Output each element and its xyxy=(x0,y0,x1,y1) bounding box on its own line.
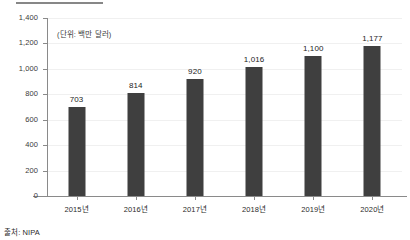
y-axis-tick-label: 1,000 xyxy=(19,65,38,73)
x-axis-tick-label: 2020년 xyxy=(360,203,384,214)
y-axis-tick xyxy=(43,171,48,172)
bar[interactable] xyxy=(68,107,85,196)
bar-value-label: 920 xyxy=(188,67,202,76)
y-axis-tick xyxy=(43,18,48,19)
x-axis-tick xyxy=(372,196,373,200)
bar[interactable] xyxy=(127,93,144,196)
x-axis-tick xyxy=(136,196,137,200)
y-axis-tick xyxy=(43,94,48,95)
bar-group[interactable]: 814 xyxy=(110,18,162,196)
bar-value-label: 814 xyxy=(129,81,143,90)
bar-group[interactable]: 1,016 xyxy=(228,18,280,196)
y-axis-tick-label: 400 xyxy=(25,141,38,149)
x-axis-tick xyxy=(254,196,255,200)
bar-value-label: 1,100 xyxy=(303,44,324,53)
bar-chart-figure: 7038149201,0161,1001,177 (단위: 백만 달러) 출처:… xyxy=(0,0,410,240)
bar[interactable] xyxy=(364,46,381,196)
x-axis-tick xyxy=(313,196,314,200)
y-axis-tick xyxy=(43,43,48,44)
y-axis-tick xyxy=(43,145,48,146)
y-axis-tick xyxy=(43,69,48,70)
x-axis-tick-label: 2018년 xyxy=(242,203,266,214)
bar-value-label: 1,016 xyxy=(244,55,265,64)
bar[interactable] xyxy=(305,56,322,196)
bar-group[interactable]: 920 xyxy=(169,18,221,196)
y-axis-tick-label: 1,400 xyxy=(19,14,38,22)
x-axis-tick xyxy=(195,196,196,200)
bar-group[interactable]: 1,177 xyxy=(346,18,398,196)
bar-group[interactable]: 1,100 xyxy=(287,18,339,196)
y-axis-tick xyxy=(43,120,48,121)
bar[interactable] xyxy=(246,67,263,196)
x-axis-line xyxy=(33,196,407,197)
y-axis-tick-label: 1,200 xyxy=(19,39,38,47)
bar-value-label: 1,177 xyxy=(362,34,383,43)
x-axis-tick-label: 2017년 xyxy=(183,203,207,214)
y-axis-tick-label: 0 xyxy=(34,192,38,200)
y-axis-tick-label: 200 xyxy=(25,167,38,175)
plot-area: 7038149201,0161,1001,177 xyxy=(47,18,402,196)
source-note: 출처: NIPA xyxy=(4,226,40,237)
unit-annotation: (단위: 백만 달러) xyxy=(57,28,111,39)
y-axis-tick xyxy=(43,196,48,197)
x-axis-tick xyxy=(77,196,78,200)
y-axis-tick-label: 800 xyxy=(25,90,38,98)
x-axis-tick-label: 2016년 xyxy=(124,203,148,214)
bar-group[interactable]: 703 xyxy=(51,18,103,196)
bar-value-label: 703 xyxy=(70,95,84,104)
y-axis-tick-label: 600 xyxy=(25,116,38,124)
x-axis-tick-label: 2019년 xyxy=(301,203,325,214)
top-divider-rule xyxy=(16,2,103,4)
bar[interactable] xyxy=(186,79,203,196)
x-axis-tick-label: 2015년 xyxy=(64,203,88,214)
